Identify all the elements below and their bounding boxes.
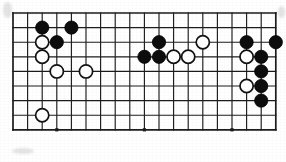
black-stone[interactable] (50, 36, 63, 49)
black-stone[interactable] (152, 36, 165, 49)
star-point (230, 128, 233, 131)
black-stone[interactable] (138, 50, 151, 63)
white-stone[interactable] (79, 65, 92, 78)
white-stone[interactable] (36, 109, 49, 122)
black-stone[interactable] (255, 79, 268, 92)
white-stone[interactable] (36, 50, 49, 63)
white-stone[interactable] (196, 36, 209, 49)
black-stone[interactable] (65, 21, 78, 34)
white-stone[interactable] (182, 50, 195, 63)
black-stone[interactable] (269, 36, 282, 49)
star-point (55, 128, 58, 131)
go-board-canvas[interactable] (0, 0, 286, 162)
white-stone[interactable] (36, 36, 49, 49)
black-stone[interactable] (36, 21, 49, 34)
black-stone[interactable] (240, 36, 253, 49)
black-stone[interactable] (152, 50, 165, 63)
black-stone[interactable] (255, 65, 268, 78)
star-point (143, 128, 146, 131)
white-stone[interactable] (240, 50, 253, 63)
white-stone[interactable] (240, 79, 253, 92)
white-stone[interactable] (167, 50, 180, 63)
go-board-diagram (0, 0, 286, 162)
black-stone[interactable] (255, 94, 268, 107)
black-stone[interactable] (255, 50, 268, 63)
white-stone[interactable] (50, 65, 63, 78)
